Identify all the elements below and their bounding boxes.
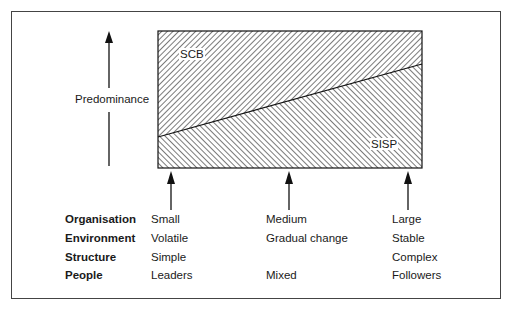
sisp-label: SISP bbox=[370, 138, 398, 150]
row-label-organisation: Organisation bbox=[65, 213, 136, 226]
arrow-small bbox=[167, 171, 175, 210]
predominance-label: Predominance bbox=[75, 93, 149, 106]
cell-left-organisation: Small bbox=[151, 213, 180, 226]
cell-right-people: Followers bbox=[392, 269, 441, 282]
cell-middle-organisation: Medium bbox=[266, 213, 307, 226]
cell-right-organisation: Large bbox=[392, 213, 421, 226]
cell-right-structure: Complex bbox=[392, 251, 437, 264]
cell-right-environment: Stable bbox=[392, 232, 425, 245]
cell-middle-people: Mixed bbox=[266, 269, 297, 282]
cell-left-structure: Simple bbox=[151, 251, 186, 264]
arrow-medium bbox=[285, 171, 293, 210]
row-label-people: People bbox=[65, 269, 103, 282]
row-label-structure: Structure bbox=[65, 251, 116, 264]
cell-left-environment: Volatile bbox=[151, 232, 188, 245]
scb-label: SCB bbox=[179, 48, 205, 60]
cell-left-people: Leaders bbox=[151, 269, 193, 282]
cell-middle-environment: Gradual change bbox=[266, 232, 348, 245]
arrow-large bbox=[404, 171, 412, 210]
predominance-arrow-head-icon bbox=[105, 31, 113, 43]
row-label-environment: Environment bbox=[65, 232, 135, 245]
